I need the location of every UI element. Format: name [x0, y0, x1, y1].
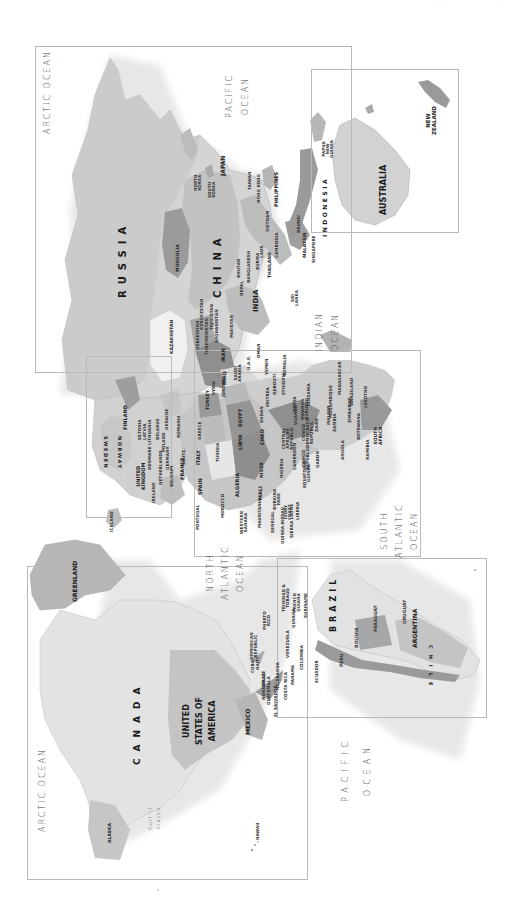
label-tunisia: TUNISIA [216, 443, 220, 462]
label-ireland: IRELAND [152, 482, 156, 503]
label-indian-ocean: INDIAN OCEAN [312, 312, 344, 352]
corner-mark-2: · · · [496, 2, 504, 8]
label-italy: ITALY [196, 450, 201, 465]
label-gulf-of-alaska: Gulf of Alaska [146, 806, 162, 830]
label-belarus: BELARUS [156, 418, 160, 440]
label-thailand: THAILAND [268, 252, 273, 278]
label-uae: U.A.E. [247, 356, 251, 370]
label-french-guiana: FRENCH GUIANA [293, 593, 301, 612]
label-south-korea: SOUTH KOREA [208, 182, 216, 198]
label-egypt: EGYPT [238, 409, 243, 427]
label-somalia: SOMALIA [283, 355, 287, 376]
label-namibia: NAMIBIA [366, 440, 370, 460]
label-malaysia: MALAYSIA [303, 232, 308, 258]
label-hawaii: HAWAII [256, 823, 260, 840]
label-jordan: JORDAN [222, 378, 226, 397]
label-pacific-ocean-top: PACIFIC OCEAN [222, 74, 254, 118]
label-ethiopia: ETHIOPIA [282, 373, 286, 395]
label-swaziland: SWAZILAND [350, 378, 354, 406]
label-sweden: SWEDEN [103, 436, 108, 469]
label-mauritania: MAURITANIA [258, 498, 262, 528]
label-sri-lanka: SRI LANKA [291, 290, 299, 306]
label-gabon: GABON [316, 451, 320, 468]
label-djibouti: DJIBOUTI [273, 374, 277, 395]
label-oman: OMAN [257, 344, 261, 358]
label-hong-kong: HONG KONG [257, 174, 261, 203]
label-zaire: ZAIRE [315, 418, 319, 432]
label-paraguay: PARAGUAY [374, 605, 379, 632]
label-japan: JAPAN [220, 156, 226, 176]
label-dr-congo: CONGO DEMOCRATIC REPUBLIC [302, 417, 315, 448]
label-norway: NORWAY [117, 436, 122, 470]
label-philippines: PHILIPPINES [274, 172, 279, 207]
label-poland: POLAND [162, 432, 166, 452]
label-uruguay: URUGUAY [403, 600, 408, 624]
label-peru: PERU [340, 654, 345, 668]
label-ivory-coast: IVORY COAST [284, 504, 292, 520]
world-map [0, 0, 516, 910]
label-libya: LIBYA [238, 434, 243, 450]
label-brazil: BRAZIL [330, 576, 338, 632]
label-iceland: ICELAND [110, 512, 114, 532]
label-eritrea: ERITREA [266, 387, 270, 407]
label-bolivia: BOLIVIA [355, 628, 360, 648]
label-argentina: ARGENTINA [412, 609, 418, 648]
label-madagascar: MADAGASCAR [338, 362, 342, 395]
label-western-sahara: WESTERN SAHARA [240, 511, 248, 534]
label-suriname: SURINAME [304, 593, 308, 618]
label-kazakhstan: KAZAKHSTAN [170, 320, 175, 354]
label-mozambique: MOZAMBIQUE [329, 385, 333, 418]
label-colombia: COLOMBIA [300, 645, 304, 670]
label-netherlands: NETHERLANDS [159, 450, 163, 485]
label-alaska: ALASKA [108, 823, 113, 843]
label-botswana: BOTSWANA [357, 413, 361, 440]
label-greenland: GREENLAND [72, 561, 78, 602]
label-australia: AUSTRALIA [380, 165, 388, 215]
label-congo-republic: CONGO REPUBLIC [302, 447, 310, 470]
label-arctic-ocean-top: ARCTIC OCEAN [44, 50, 52, 134]
label-algeria: ALGERIA [235, 473, 240, 497]
label-zambia: ZAMBIA [333, 414, 337, 432]
label-nigeria: NIGERIA [280, 459, 284, 478]
label-vietnam: VIETNAM [266, 211, 270, 232]
label-papua-new-guinea: PAPUA NEW GUINEA [322, 140, 335, 158]
label-niger: NIGER [260, 462, 265, 478]
label-central-african-republic: CENTRAL AFRICAN REPUBLIC [282, 427, 295, 450]
label-india: INDIA [253, 290, 260, 312]
label-finland: FINLAND [123, 405, 128, 430]
label-dominican-republic: DOMINICAN REPUBLIC [250, 632, 258, 660]
label-ukraine: UKRAINE [165, 409, 169, 430]
label-burkina-faso: BURKINA FASO [273, 489, 281, 510]
label-yemen: YEMEN [265, 359, 269, 375]
label-singapore: SINGAPORE [312, 236, 316, 263]
label-kenya: KENYA [293, 397, 297, 412]
corner-mark-1: · · · · · [432, 2, 446, 8]
label-canada: CANADA [133, 680, 142, 765]
label-ecuador: ECUADOR [315, 660, 319, 683]
label-morocco: MOROCCO [221, 494, 225, 518]
label-greece: GREECE [198, 422, 202, 440]
label-arctic-ocean-bottom: ARCTIC OCEAN [39, 748, 47, 832]
label-south-africa: SOUTH AFRICA [374, 427, 383, 445]
eurasia-landmass [62, 58, 310, 400]
label-afghanistan: AFGHANISTAN [215, 309, 219, 343]
label-puerto-rico: PUERTO RICO [263, 611, 271, 630]
label-burma: BURMA [256, 253, 260, 270]
label-bangladesh: BANGLADESH [247, 251, 251, 283]
label-mexico: MEXICO [245, 709, 251, 735]
label-angola: ANGOLA [341, 440, 345, 460]
label-laos: LAOS [260, 246, 264, 259]
label-mongolia: MONGOLIA [176, 244, 181, 272]
label-pakistan: PAKISTAN [230, 315, 234, 338]
label-haiti: HAITI [256, 657, 260, 670]
label-china: CHINA [213, 232, 223, 298]
label-portugal: PORTUGAL [196, 505, 200, 530]
label-pacific-ocean-bottom: PACIFIC OCEAN [335, 737, 379, 802]
label-lesotho: LESOTHO [364, 386, 368, 408]
label-south-atlantic-ocean: SOUTH ATLANTIC OCEAN [377, 503, 422, 558]
label-north-atlantic-ocean: NORTH ATLANTIC OCEAN [203, 545, 248, 600]
label-mali: MALI [258, 486, 263, 500]
label-new-zealand: NEW ZEALAND [426, 106, 437, 135]
label-usa: UNITED STATES OF AMERICA [180, 697, 219, 745]
label-nicaragua: NICARAGUA [276, 662, 280, 690]
